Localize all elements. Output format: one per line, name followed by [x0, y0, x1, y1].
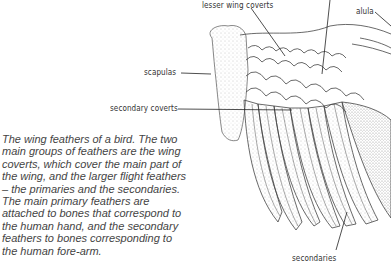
figure-caption: The wing feathers of a bird. The two mai… — [2, 133, 187, 257]
wing-body — [240, 24, 391, 112]
label-scapulas: scapulas — [144, 67, 176, 77]
label-secondaries: secondaries — [292, 253, 336, 263]
flight-feathers — [244, 100, 391, 230]
label-alula: alula — [356, 6, 374, 16]
label-lesser-wing-coverts: lesser wing coverts — [202, 0, 273, 10]
label-secondary-coverts: secondary coverts — [110, 103, 178, 113]
scapulas-feathers — [210, 25, 248, 140]
